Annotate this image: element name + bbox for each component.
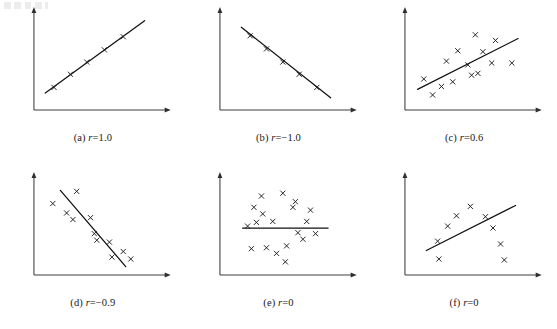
data-point-marker (284, 243, 289, 248)
data-point-marker (476, 71, 481, 76)
fit-line (60, 190, 125, 266)
caption-label-f: (f) (450, 297, 461, 308)
scatter-plot-f (371, 171, 557, 297)
data-point-marker (107, 239, 112, 244)
data-point-marker (473, 33, 478, 38)
data-point-marker (71, 217, 76, 222)
data-point-marker (64, 210, 69, 215)
caption-r-value-a: =1.0 (93, 132, 112, 143)
caption-label-d: (d) (70, 297, 83, 308)
data-point-marker (422, 77, 427, 82)
plot-area-f (371, 165, 557, 299)
correlation-figure: (a) r=1.0 (b) r=−1.0 (c) r=0.6 ( (0, 0, 557, 329)
plot-area-d (0, 165, 186, 299)
data-point-marker (470, 73, 475, 78)
data-point-marker (455, 213, 460, 218)
x-axis-arrow (165, 272, 171, 277)
data-point-marker (300, 236, 305, 241)
data-point-marker (259, 193, 264, 198)
panel-b: (b) r=−1.0 (186, 0, 372, 165)
data-point-marker (502, 257, 507, 262)
caption-label-c: (c) (445, 132, 457, 143)
data-point-marker (436, 238, 441, 243)
y-axis-arrow (217, 7, 222, 13)
data-point-marker (102, 48, 107, 53)
data-point-marker (251, 205, 256, 210)
panel-d: (d) r=−0.9 (0, 165, 186, 329)
caption-r-value-f: =0 (467, 297, 478, 308)
data-point-marker (295, 230, 300, 235)
data-point-marker (510, 61, 515, 66)
caption-label-e: (e) (263, 297, 275, 308)
data-point-marker (444, 59, 449, 64)
data-point-marker (51, 201, 56, 206)
data-point-marker (88, 215, 93, 220)
data-point-marker (264, 245, 269, 250)
fit-line (45, 21, 144, 93)
caption-label-a: (a) (74, 132, 86, 143)
data-point-marker (483, 214, 488, 219)
panel-f: (f) r=0 (371, 165, 557, 329)
data-point-marker (304, 219, 309, 224)
caption-r-value-b: =−1.0 (275, 132, 300, 143)
x-axis-arrow (536, 272, 542, 277)
y-axis-arrow (217, 172, 222, 178)
scatter-plot-d (0, 171, 186, 297)
panel-c: (c) r=0.6 (371, 0, 557, 165)
data-point-marker (110, 254, 115, 259)
scatter-plot-a (0, 6, 186, 132)
caption-label-b: (b) (256, 132, 269, 143)
data-point-marker (260, 211, 265, 216)
fit-line (418, 39, 519, 90)
panel-a: (a) r=1.0 (0, 0, 186, 165)
caption-a: (a) r=1.0 (0, 131, 186, 145)
panel-grid: (a) r=1.0 (b) r=−1.0 (c) r=0.6 ( (0, 0, 557, 329)
panel-e: (e) r=0 (186, 165, 372, 329)
plot-area-c (371, 0, 557, 134)
data-point-marker (274, 251, 279, 256)
data-point-marker (270, 219, 275, 224)
data-point-marker (490, 61, 495, 66)
data-point-marker (290, 205, 295, 210)
data-point-marker (446, 223, 451, 228)
data-point-marker (308, 207, 313, 212)
caption-b: (b) r=−1.0 (186, 131, 372, 145)
plot-area-a (0, 0, 186, 134)
data-point-marker (491, 225, 496, 230)
scatter-plot-c (371, 6, 557, 132)
data-point-marker (280, 190, 285, 195)
caption-r-value-c: =0.6 (464, 132, 483, 143)
data-point-marker (499, 241, 504, 246)
caption-r-value-e: =0 (282, 297, 293, 308)
data-point-marker (249, 246, 254, 251)
x-axis-arrow (350, 108, 356, 113)
caption-f: (f) r=0 (371, 296, 557, 310)
plot-area-e (186, 165, 372, 299)
scatter-plot-e (186, 171, 372, 297)
data-point-marker (456, 48, 461, 53)
plot-area-b (186, 0, 372, 134)
y-axis-arrow (403, 7, 408, 13)
x-axis-arrow (536, 108, 542, 113)
data-point-marker (437, 256, 442, 261)
data-point-marker (313, 231, 318, 236)
data-point-marker (74, 189, 79, 194)
x-axis-arrow (350, 272, 356, 277)
caption-e: (e) r=0 (186, 296, 372, 310)
data-point-marker (121, 249, 126, 254)
data-point-marker (494, 38, 499, 43)
data-point-marker (451, 80, 456, 85)
caption-r-value-d: =−0.9 (90, 297, 115, 308)
data-point-marker (293, 199, 298, 204)
x-axis-arrow (165, 108, 171, 113)
scatter-plot-b (186, 6, 372, 132)
data-point-marker (439, 84, 444, 89)
caption-d: (d) r=−0.9 (0, 296, 186, 310)
data-point-marker (431, 93, 436, 98)
data-point-marker (283, 259, 288, 264)
data-point-marker (95, 237, 100, 242)
y-axis-arrow (32, 172, 37, 178)
data-point-marker (254, 220, 259, 225)
data-point-marker (468, 204, 473, 209)
data-point-marker (128, 256, 133, 261)
